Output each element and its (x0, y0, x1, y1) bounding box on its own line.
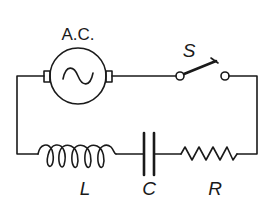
resistor-zigzag (181, 147, 237, 160)
switch-blade (184, 61, 216, 74)
resistor-label: R (208, 178, 222, 199)
switch (176, 58, 229, 80)
source-terminal-left (44, 71, 50, 82)
ac-source (44, 48, 112, 104)
switch-contact-left (176, 72, 184, 80)
capacitor-label: C (142, 178, 156, 199)
circuit-diagram: A.C. S L C R (0, 0, 271, 215)
sine-wave-icon (63, 68, 93, 84)
switch-contact-right (221, 72, 229, 80)
inductor-label: L (80, 178, 91, 199)
wire-left (17, 76, 44, 154)
capacitor (144, 133, 154, 175)
source-terminal-right (106, 71, 112, 82)
inductor-coil (38, 145, 116, 167)
switch-label: S (183, 40, 196, 61)
wire-right (229, 76, 257, 154)
source-label: A.C. (61, 25, 94, 44)
